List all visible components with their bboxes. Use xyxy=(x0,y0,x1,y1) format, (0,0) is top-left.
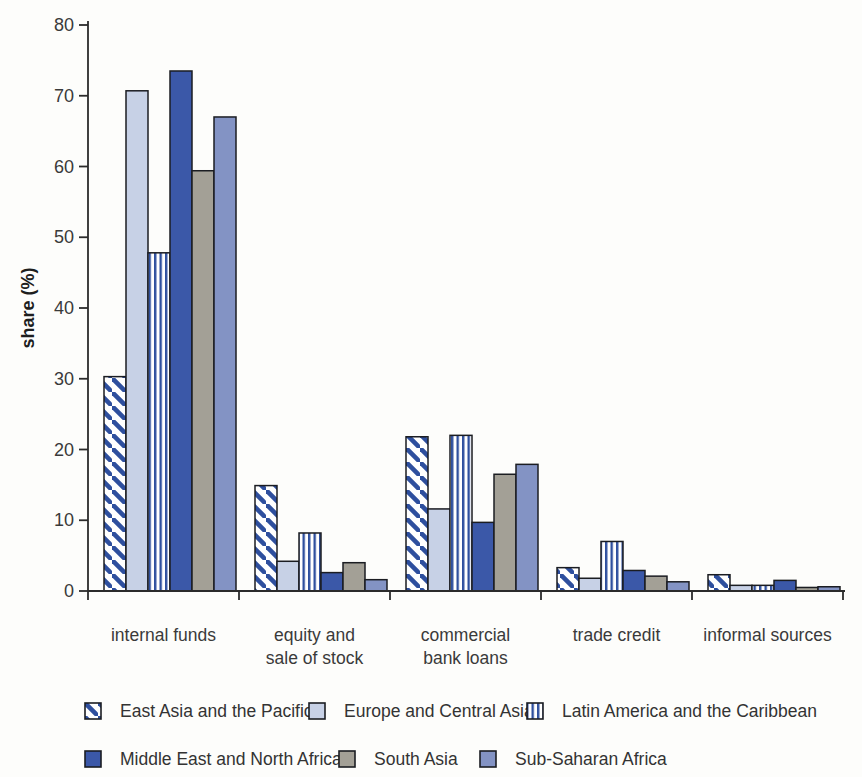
bar-series1-cat3 xyxy=(406,437,428,591)
bar-series1-cat4 xyxy=(557,568,579,591)
y-tick-label: 70 xyxy=(54,86,74,106)
legend-label: Latin America and the Caribbean xyxy=(562,701,817,722)
legend-item-6: Sub-Saharan Africa xyxy=(479,749,667,769)
legend-label: South Asia xyxy=(374,749,458,770)
x-category-label: sale of stock xyxy=(266,648,364,668)
bar-series5-cat2 xyxy=(343,563,365,591)
bar-series2-cat1 xyxy=(126,91,148,591)
legend-label: East Asia and the Pacific xyxy=(120,701,313,722)
legend-label: Middle East and North Africa xyxy=(120,749,342,770)
bar-series3-cat3 xyxy=(450,435,472,591)
legend-swatch-icon xyxy=(308,702,326,720)
legend-swatch-icon xyxy=(526,702,544,720)
y-tick-label: 40 xyxy=(54,298,74,318)
y-tick-label: 60 xyxy=(54,157,74,177)
bar-series5-cat4 xyxy=(645,576,667,591)
bar-series2-cat4 xyxy=(579,578,601,591)
legend-item-3: Latin America and the Caribbean xyxy=(526,701,817,721)
x-category-label: informal sources xyxy=(703,625,832,645)
y-tick-label: 10 xyxy=(54,510,74,530)
y-axis-title: share (%) xyxy=(18,267,38,348)
y-tick-label: 50 xyxy=(54,227,74,247)
bar-series6-cat3 xyxy=(516,464,538,591)
legend-swatch-icon xyxy=(338,750,356,768)
bar-series1-cat2 xyxy=(255,486,277,591)
x-category-label: equity and xyxy=(274,625,355,645)
legend-swatch-icon xyxy=(84,750,102,768)
bar-series2-cat3 xyxy=(428,509,450,591)
bar-series4-cat2 xyxy=(321,573,343,591)
bar-series6-cat1 xyxy=(214,117,236,591)
bar-series4-cat3 xyxy=(472,522,494,591)
y-tick-label: 80 xyxy=(54,15,74,35)
x-category-label: commercial xyxy=(421,625,510,645)
y-tick-label: 20 xyxy=(54,440,74,460)
bar-series3-cat2 xyxy=(299,533,321,591)
y-tick-label: 0 xyxy=(64,581,74,601)
bar-series1-cat5 xyxy=(708,575,730,591)
bar-chart: share (%) 01020304050607080internal fund… xyxy=(0,0,862,690)
bar-series1-cat1 xyxy=(104,377,126,591)
legend-item-4: Middle East and North Africa xyxy=(84,749,342,769)
legend-item-5: South Asia xyxy=(338,749,458,769)
bar-series4-cat5 xyxy=(774,580,796,591)
bar-series3-cat4 xyxy=(601,541,623,591)
bar-series3-cat1 xyxy=(148,253,170,591)
legend-item-2: Europe and Central Asia xyxy=(308,701,534,721)
legend-swatch-icon xyxy=(84,702,102,720)
y-tick-label: 30 xyxy=(54,369,74,389)
bar-series4-cat4 xyxy=(623,570,645,591)
legend-label: Sub-Saharan Africa xyxy=(515,749,667,770)
figure: share (%) 01020304050607080internal fund… xyxy=(0,0,862,777)
bar-series5-cat3 xyxy=(494,474,516,591)
legend-item-1: East Asia and the Pacific xyxy=(84,701,313,721)
bar-series4-cat1 xyxy=(170,71,192,591)
bar-series2-cat2 xyxy=(277,561,299,591)
bar-series5-cat1 xyxy=(192,171,214,591)
x-category-label: trade credit xyxy=(573,625,661,645)
x-category-label: bank loans xyxy=(423,648,508,668)
legend-label: Europe and Central Asia xyxy=(344,701,534,722)
bar-series6-cat4 xyxy=(667,582,689,591)
bar-series6-cat2 xyxy=(365,580,387,591)
x-category-label: internal funds xyxy=(111,625,216,645)
legend-swatch-icon xyxy=(479,750,497,768)
